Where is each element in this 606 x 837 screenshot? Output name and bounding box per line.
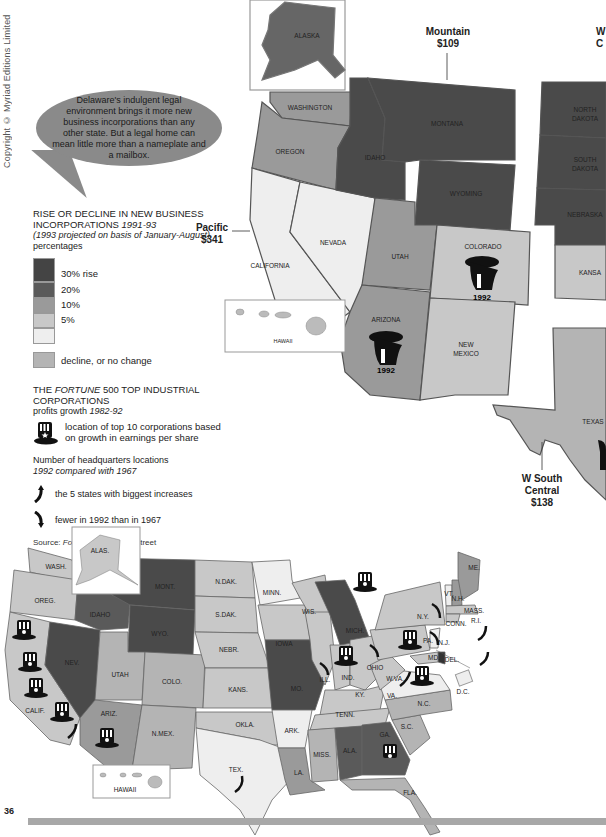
state-md: [410, 652, 438, 664]
label-ndak: N.DAK.: [215, 578, 237, 585]
label-la: LA.: [294, 769, 304, 776]
state-california: [250, 168, 350, 340]
state-mass: [446, 605, 478, 614]
scale-label-5: 5%: [61, 314, 75, 325]
legend-scale: 30% rise 20% 10% 5% decline, or no chang…: [33, 258, 223, 378]
top-hat-colorado-icon: [465, 256, 499, 290]
fortune-title-pre: THE: [33, 384, 52, 395]
top-hat-ind-icon: [334, 646, 358, 666]
hat-legend-desc: location of top 10 corporations based on…: [65, 421, 223, 443]
arrow-up-calif-icon: [68, 724, 76, 738]
label-oregon: OREGON: [276, 148, 305, 155]
label-pa: PA.: [423, 637, 433, 644]
region-wsc-name1: W South: [512, 473, 572, 485]
label-nj: N.J.: [438, 639, 450, 646]
state-mo: [265, 640, 325, 710]
label-fla: FLA.: [403, 789, 417, 796]
colorado-hat-year: 1992: [473, 293, 491, 302]
label-new-mexico-2: MEXICO: [453, 350, 479, 357]
fortune-title-italic: FORTUNE: [55, 384, 101, 395]
state-vt: [445, 585, 452, 606]
label-utah-lower: UTAH: [111, 671, 129, 678]
label-ariz: ARIZ.: [101, 710, 118, 717]
arrow-up-va-icon: [400, 672, 410, 686]
label-north-dakota-2: DAKOTA: [572, 115, 599, 122]
state-montana: [368, 78, 515, 162]
arrow-down-ny-icon: [432, 604, 440, 618]
region-pacific: Pacific $341: [190, 222, 234, 246]
hawaii-islands: [236, 309, 326, 335]
label-washington: WASHINGTON: [288, 104, 333, 111]
region-pacific-value: $341: [190, 234, 234, 246]
fortune-title: THE FORTUNE 500 TOP INDUSTRIAL CORPORATI…: [33, 384, 223, 406]
scale-label-30: 30% rise: [61, 268, 98, 279]
state-ind: [330, 645, 350, 690]
arrow-down-pa-icon: [430, 632, 438, 645]
legend-title-line1: RISE OR DECLINE IN NEW BUSINESS: [33, 208, 204, 219]
label-mo: MO.: [291, 685, 303, 692]
label-south-dakota-1: SOUTH: [574, 156, 597, 163]
state-pa: [370, 625, 430, 660]
state-sc: [392, 715, 430, 755]
label-ky: KY.: [355, 691, 365, 698]
label-dc: D.C.: [457, 688, 470, 695]
state-nj: [430, 628, 440, 648]
label-ark: ARK.: [284, 727, 299, 734]
state-idaho-lower: [72, 560, 130, 630]
swatch-10: [33, 298, 55, 313]
label-texas: TEXAS: [582, 418, 604, 425]
fortune-sub-plain: profits growth: [33, 406, 87, 416]
legend-subtitle-plain: percentages: [33, 241, 83, 251]
region-mountain-value: $109: [420, 38, 476, 50]
state-wis: [292, 575, 330, 615]
state-sdak: [195, 596, 258, 633]
region-pacific-name: Pacific: [190, 222, 234, 234]
label-idaho-lower: IDAHO: [90, 611, 111, 618]
alaska-inset-frame: [250, 0, 345, 90]
state-nev: [45, 622, 100, 718]
state-nevada: [290, 182, 375, 320]
label-mass: MASS.: [464, 607, 484, 614]
label-miss: MISS.: [313, 751, 331, 758]
state-ga: [362, 722, 410, 775]
label-hawaii-lower: HAWAII: [114, 786, 137, 793]
region-w-south-central: W South Central $138: [512, 473, 572, 509]
arrow-up-desc: the 5 states with biggest increases: [55, 489, 193, 500]
arizona-hat-year: 1992: [377, 366, 395, 375]
curved-arrow-down-icon: [33, 511, 45, 529]
state-kans: [203, 668, 272, 708]
label-wva: W.VA.: [386, 675, 404, 682]
label-california: CALIFORNIA: [250, 262, 290, 269]
label-okla: OKLA.: [235, 721, 254, 728]
state-miss: [308, 728, 338, 782]
arrow-up-del-icon: [480, 652, 488, 665]
hat-legend-row: location of top 10 corporations based on…: [33, 421, 223, 447]
state-north-dakota: [540, 82, 606, 138]
top-hat-ga-icon: [383, 744, 397, 758]
label-nh: N.H.: [452, 595, 465, 602]
label-montana: MONTANA: [431, 120, 464, 127]
label-iowa: IOWA: [275, 640, 293, 647]
label-nevada: NEVADA: [320, 239, 347, 246]
dc-leader-line: [436, 650, 470, 668]
region-mountain: Mountain $109: [420, 26, 476, 50]
state-south-dakota: [537, 135, 606, 190]
label-nmex: N.MEX.: [152, 730, 175, 737]
state-mich: [315, 580, 370, 645]
legend: RISE OR DECLINE IN NEW BUSINESS INCORPOR…: [33, 208, 223, 548]
state-la: [278, 748, 325, 795]
label-md: MD.: [428, 654, 440, 661]
legend-title-line2: INCORPORATIONS: [33, 219, 119, 230]
label-alaska: ALASKA: [294, 32, 320, 39]
scale-label-20: 20%: [61, 284, 80, 295]
arrow-down-ohio-icon: [370, 645, 378, 657]
hawaii-inset-frame: [225, 300, 345, 352]
fortune-sub-italic: 1982-92: [90, 406, 123, 416]
state-wva: [370, 655, 405, 690]
label-nev: NEV.: [65, 659, 80, 666]
state-fla: [340, 778, 440, 835]
state-del: [438, 652, 445, 664]
region-mountain-name: Mountain: [420, 26, 476, 38]
top-hat-va-icon: [410, 666, 434, 686]
label-north-dakota-1: NORTH: [574, 106, 597, 113]
